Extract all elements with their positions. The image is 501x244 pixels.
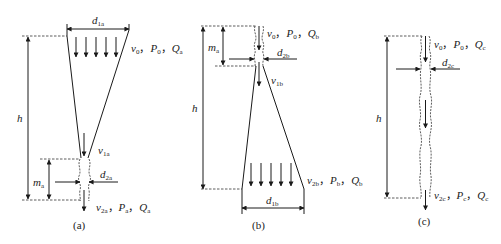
nozzle-a-right-outline <box>89 159 91 201</box>
label-v1a: v1a <box>98 144 110 158</box>
label-h-a: h <box>17 112 23 124</box>
flow-arrows-a <box>76 37 116 57</box>
label-h-c: h <box>376 112 382 124</box>
label-v1b: v1b <box>271 74 283 88</box>
label-bottom-state-b: v2b，Pb，Qb <box>307 174 363 188</box>
label-d1a: d1a <box>92 14 105 28</box>
caption-b: (b) <box>252 219 265 232</box>
nozzle-a-left-outline <box>79 159 81 201</box>
label-bottom-state-c: v2c，Pc，Qc <box>434 189 488 203</box>
nozzle-b-left-outline <box>254 26 256 66</box>
diffuser-b-left-wall <box>242 66 256 214</box>
label-d2a: d2a <box>100 168 113 182</box>
jet-c-left-outline <box>419 36 422 198</box>
panel-b: v0，P0，Qb ma d2b v1b h v2b，Pb，Qb d1b (b) <box>192 26 363 232</box>
panel-a: d1a v0，P0，Qa h v1a ma d2a v2a，Pa，Qa (a) <box>17 14 184 232</box>
label-top-state-c: v0，P0，Qc <box>434 38 486 52</box>
label-bottom-state-a: v2a，Pa，Qa <box>96 201 151 215</box>
label-d2c: d2c <box>442 56 454 70</box>
label-top-state-b: v0，P0，Qb <box>267 27 320 41</box>
funnel-a-left-wall <box>67 36 81 158</box>
label-ma-b: ma <box>208 41 220 55</box>
funnel-a-right-wall <box>88 30 129 158</box>
panel-c: v0，P0，Qc d2c h v2c，Pc，Qc (c) <box>376 36 488 228</box>
caption-c: (c) <box>418 215 431 228</box>
flow-arrows-b <box>251 163 291 186</box>
label-h-b: h <box>192 102 198 114</box>
caption-a: (a) <box>73 219 86 232</box>
diffuser-b-right-wall <box>263 66 304 214</box>
jet-c-right-outline <box>429 36 432 198</box>
label-d2b: d2b <box>277 46 290 60</box>
label-d1b: d1b <box>266 194 279 208</box>
jet-flow-diagram: d1a v0，P0，Qa h v1a ma d2a v2a，Pa，Qa (a) <box>0 0 501 244</box>
label-ma: ma <box>33 176 45 190</box>
nozzle-b-right-outline <box>262 26 264 66</box>
label-top-state-a: v0，P0，Qa <box>131 42 184 56</box>
